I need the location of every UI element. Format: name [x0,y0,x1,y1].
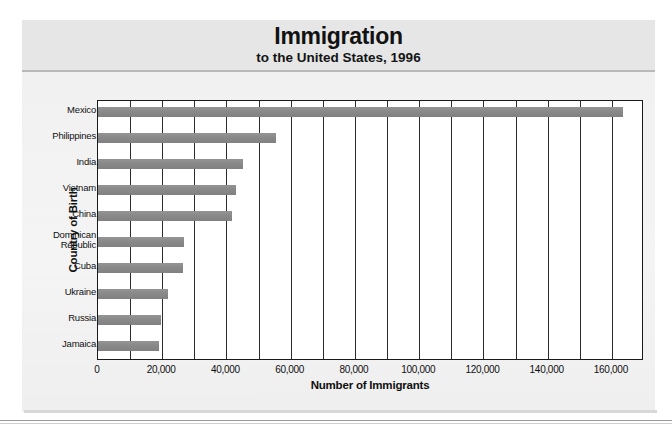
bar-series [98,101,642,359]
y-axis-tick-label: Cuba [48,261,96,272]
y-axis-tick-label: Philippines [48,131,96,142]
bar [98,263,183,273]
chart-title: Immigration [22,20,655,49]
x-axis-tick-label: 40,000 [211,364,240,375]
bottom-divider [0,420,672,421]
bar [98,341,159,351]
y-axis-tick-label: China [48,209,96,220]
bar [98,107,623,117]
bar [98,315,161,325]
x-axis-tick-label: 120,000 [465,364,499,375]
title-band: Immigration to the United States, 1996 [22,20,655,72]
chart-area: Country of Birth MexicoPhilippinesIndiaV… [22,74,655,412]
bar [98,237,184,247]
y-axis-tick-label-group: Jamaica [48,339,96,350]
y-axis-tick-label-group: Mexico [48,105,96,116]
x-axis-tick-label: 0 [94,364,99,375]
bar [98,185,236,195]
bar [98,133,276,143]
y-axis-tick-label-group: Vietnam [48,183,96,194]
y-axis-tick-label: India [48,157,96,168]
y-axis-tick-label-group: DominicanRepublic [48,230,96,251]
y-axis-tick-label-group: Russia [48,313,96,324]
y-axis-tick-label: Mexico [48,105,96,116]
y-axis-tick-label: Russia [48,313,96,324]
bottom-divider-secondary [0,423,672,424]
x-axis-tick-label: 100,000 [401,364,435,375]
y-axis-tick-label: Jamaica [48,339,96,350]
x-axis-tick-label: 60,000 [275,364,304,375]
bar [98,159,243,169]
y-axis-tick-label-group: Cuba [48,261,96,272]
y-axis-tick-label: Republic [48,240,96,251]
x-axis-tick-label: 140,000 [530,364,564,375]
x-axis-title: Number of Immigrants [97,379,643,391]
x-axis-tick-label: 20,000 [147,364,176,375]
bar [98,211,232,221]
figure: Immigration to the United States, 1996 C… [0,0,672,434]
y-axis-tick-label-group: China [48,209,96,220]
y-axis-tick-label: Ukraine [48,287,96,298]
chart-subtitle: to the United States, 1996 [22,49,655,66]
bar [98,289,168,299]
y-axis-tick-label-group: Ukraine [48,287,96,298]
y-axis-tick-label-group: Philippines [48,131,96,142]
y-axis-tick-label-group: India [48,157,96,168]
x-axis-tick-label: 160,000 [594,364,628,375]
x-axis-tick-label: 80,000 [340,364,369,375]
y-axis-tick-labels: MexicoPhilippinesIndiaVietnamChinaDomini… [48,100,96,360]
plot-area [97,100,643,360]
y-axis-tick-label: Vietnam [48,183,96,194]
